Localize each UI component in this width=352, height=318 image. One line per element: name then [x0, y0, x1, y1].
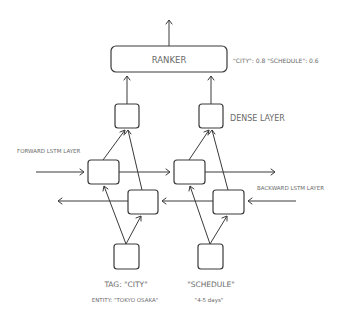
forward1-to-dense1-arrow	[103, 130, 125, 160]
input-2-tag: "SCHEDULE"	[187, 280, 234, 289]
input1-to-backward1-arrow	[126, 216, 141, 244]
ranker-label: RANKER	[152, 55, 187, 65]
dense-node-1	[115, 104, 139, 128]
input1-to-forward1-arrow	[103, 186, 126, 244]
forward-lstm-node-1	[88, 160, 119, 184]
backward-input-arrow	[248, 198, 296, 204]
dense-to-ranker-arrow-1	[124, 76, 130, 104]
input2-to-forward2-arrow	[189, 186, 210, 244]
forward-input-arrow	[36, 169, 84, 175]
input2-to-backward2-arrow	[210, 216, 227, 244]
forward1-to-forward2-arrow	[119, 169, 170, 175]
backward2-to-dense2-arrow	[209, 130, 228, 190]
backward1-to-dense1-arrow	[125, 130, 142, 190]
input-1-tag: TAG: "CITY"	[103, 280, 147, 289]
input-node-2	[198, 244, 223, 269]
ranker-scores: "CITY": 0.8 "SCHEDULE": 0.6	[233, 57, 319, 64]
output-arrow	[166, 20, 172, 46]
backward-lstm-node-1	[128, 190, 158, 214]
backward-lstm-label: BACKWARD LSTM LAYER	[257, 185, 324, 191]
input-node-1	[114, 244, 139, 269]
forward2-to-dense2-arrow	[189, 130, 209, 160]
dense-layer-label: DENSE LAYER	[230, 114, 285, 123]
dense-node-2	[199, 104, 223, 128]
backward2-to-backward1-arrow	[162, 198, 213, 204]
forward-output-arrow	[205, 169, 275, 175]
bilstm-ranker-diagram: RANKER "CITY": 0.8 "SCHEDULE": 0.6 DENSE…	[0, 0, 352, 318]
dense-to-ranker-arrow-2	[208, 76, 214, 104]
input-2-entity: "4-5 days"	[195, 297, 224, 304]
input-1-entity: ENTITY: "TOKYO OSAKA"	[92, 297, 158, 303]
backward-output-arrow	[58, 198, 128, 204]
forward-lstm-label: FORWARD LSTM LAYER	[17, 148, 81, 154]
backward-lstm-node-2	[213, 190, 244, 214]
forward-lstm-node-2	[174, 160, 205, 184]
